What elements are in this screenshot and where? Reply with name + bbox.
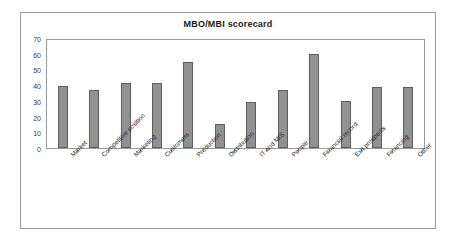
x-axis-category-label: Competitive position xyxy=(100,153,105,158)
bars-layer xyxy=(47,40,424,148)
x-axis-category-label: Market xyxy=(69,153,74,158)
bar-slot xyxy=(204,40,235,148)
y-tick-label: 30 xyxy=(33,98,41,105)
x-axis-category-label: Production xyxy=(195,153,200,158)
y-tick-label: 10 xyxy=(33,130,41,137)
y-tick-label: 70 xyxy=(33,36,41,43)
chart-title: MBO/MBI scorecard xyxy=(21,19,435,29)
x-axis-category-label: Customers xyxy=(163,153,168,158)
bar-slot xyxy=(141,40,172,148)
bar[interactable] xyxy=(58,86,68,148)
bar-slot xyxy=(393,40,424,148)
bar[interactable] xyxy=(89,90,99,148)
y-tick-label: 40 xyxy=(33,83,41,90)
y-tick-label: 60 xyxy=(33,51,41,58)
y-axis: 010203040506070 xyxy=(21,39,44,149)
bar-slot xyxy=(47,40,78,148)
x-axis-category-label: Other xyxy=(416,153,421,158)
chart-frame: MBO/MBI scorecard 010203040506070 Market… xyxy=(20,12,436,229)
y-tick-label: 0 xyxy=(37,146,41,153)
bar-slot xyxy=(173,40,204,148)
x-axis-category-label: Financing xyxy=(385,153,390,158)
bar-slot xyxy=(78,40,109,148)
bar-slot xyxy=(298,40,329,148)
x-axis-category-label: IT and MIS xyxy=(258,153,263,158)
x-axis-labels: MarketCompetitive positionMarketingCusto… xyxy=(46,153,425,227)
x-axis-category-label: Marketing xyxy=(132,153,137,158)
bar[interactable] xyxy=(309,54,319,148)
plot-area xyxy=(46,39,425,149)
x-axis-category-label: Distribution xyxy=(227,153,232,158)
x-axis-category-label: Financial record xyxy=(321,153,326,158)
y-tick-label: 20 xyxy=(33,114,41,121)
x-axis-category-label: Exit prospects xyxy=(353,153,358,158)
x-axis-category-label: People xyxy=(290,153,295,158)
y-tick-label: 50 xyxy=(33,67,41,74)
